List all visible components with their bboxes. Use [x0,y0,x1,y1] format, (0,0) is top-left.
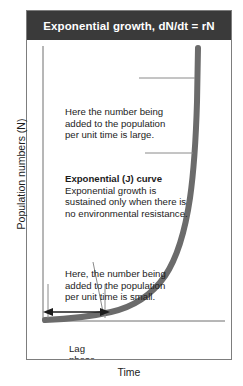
lag-phase-label-line2: phase [69,354,95,359]
annotation-top-line1: Here the number being [65,106,165,118]
annotation-top-line2: added to the population [65,118,165,130]
lag-phase-label: Lag phase [69,343,95,359]
annotation-top: Here the number being added to the popul… [65,106,165,141]
annotation-top-line3: per unit time is large. [65,129,165,141]
x-axis-label: Time [26,366,232,378]
lag-phase-label-line1: Lag [69,343,95,354]
annotation-bottom-line1: Here, the number being [65,268,166,280]
annotation-middle-heading: Exponential (J) curve [65,173,188,185]
annotation-middle-line3: no environmental resistance. [65,208,188,220]
annotation-middle-line1: Exponential growth is [65,185,188,197]
annotation-bottom-line2: added to the population [65,280,166,292]
y-axis-label: Population numbers (N) [15,104,27,244]
exponential-growth-figure: Exponential growth, dN/dt = rN [0,0,243,386]
annotation-middle-line2: sustained only when there is [65,196,188,208]
page-title: Exponential growth, dN/dt = rN [43,20,214,32]
annotation-bottom: Here, the number being added to the popu… [65,268,166,303]
annotation-middle: Exponential (J) curve Exponential growth… [65,173,188,219]
plot-area: Here the number being added to the popul… [27,40,231,359]
figure-title-bar: Exponential growth, dN/dt = rN [27,11,231,40]
annotation-bottom-line3: per unit time is small. [65,291,166,303]
